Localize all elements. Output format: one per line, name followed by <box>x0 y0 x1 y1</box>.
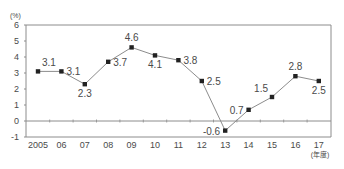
x-axis-unit-label: (年度) <box>311 150 330 159</box>
data-label: 3.1 <box>42 57 56 68</box>
y-tick-label: 0 <box>14 116 19 126</box>
y-tick-label: 6 <box>14 20 19 30</box>
data-marker <box>200 79 204 83</box>
x-tick-label: 10 <box>150 140 160 150</box>
x-tick-label: 12 <box>197 140 207 150</box>
y-tick-label: -1 <box>11 132 19 142</box>
data-marker <box>36 69 40 73</box>
x-axis-ticks: 2005060708091011121314151617 <box>28 140 324 150</box>
data-marker <box>153 53 157 57</box>
data-marker <box>83 82 87 86</box>
y-axis-label: (%) <box>10 12 21 20</box>
y-tick-label: 5 <box>14 36 19 46</box>
data-marker <box>270 95 274 99</box>
data-label: 3.8 <box>183 55 197 66</box>
data-marker <box>223 128 227 132</box>
x-tick-label: 09 <box>127 140 137 150</box>
data-marker <box>59 69 63 73</box>
y-axis-unit-label: (%) <box>10 12 21 20</box>
data-label: 2.5 <box>207 76 221 87</box>
x-tick-label: 08 <box>103 140 113 150</box>
data-marker <box>246 108 250 112</box>
data-label: 1.5 <box>254 83 268 94</box>
data-marker <box>176 58 180 62</box>
data-marker <box>129 45 133 49</box>
data-label: -0.6 <box>203 126 221 137</box>
x-tick-label: 2005 <box>28 140 48 150</box>
data-label: 3.1 <box>66 66 80 77</box>
x-tick-label: 06 <box>56 140 66 150</box>
x-tick-label: 14 <box>244 140 254 150</box>
x-tick-label: 17 <box>314 140 324 150</box>
x-tick-label: 13 <box>220 140 230 150</box>
data-label: 0.7 <box>230 105 244 116</box>
data-label: 3.7 <box>113 57 127 68</box>
line-chart: (%) 6543210-1 20050607080910111213141516… <box>0 0 344 169</box>
data-label: 2.8 <box>288 61 302 72</box>
plot-frame <box>26 25 331 137</box>
x-tick-label: 15 <box>267 140 277 150</box>
data-marker <box>293 74 297 78</box>
data-marker <box>106 60 110 64</box>
y-tick-label: 3 <box>14 68 19 78</box>
data-label: 2.3 <box>78 88 92 99</box>
y-axis-ticks: 6543210-1 <box>11 20 26 142</box>
data-label: 2.5 <box>312 85 326 96</box>
data-label: 4.1 <box>148 59 162 70</box>
x-tick-label: 11 <box>174 140 183 150</box>
data-marker <box>317 79 321 83</box>
y-tick-label: 2 <box>14 84 19 94</box>
x-tick-label: 16 <box>290 140 300 150</box>
x-tick-label: 07 <box>80 140 90 150</box>
y-tick-label: 4 <box>14 52 19 62</box>
data-label: 4.6 <box>125 32 139 43</box>
y-tick-label: 1 <box>14 100 19 110</box>
